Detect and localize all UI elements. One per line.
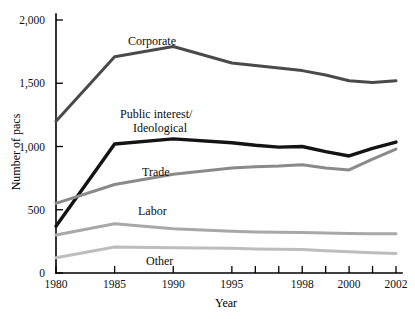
pac-growth-chart: 05001,0001,5002,000 Number of pacs 19801… [0, 0, 415, 319]
y-tick-label: 2,000 [19, 14, 45, 27]
y-tick-label: 1,000 [19, 141, 45, 154]
x-axis-title: Year [215, 296, 237, 310]
chart-canvas: 05001,0001,5002,000 Number of pacs 19801… [0, 0, 415, 319]
x-axis-group: 1980198519901995199820002002 Year [45, 266, 408, 310]
series-label: Other [146, 254, 173, 268]
x-tick-label: 2002 [385, 278, 408, 290]
series-line [56, 139, 396, 226]
y-axis-group: 05001,0001,5002,000 Number of pacs [9, 14, 63, 279]
series-label: Trade [142, 165, 170, 179]
y-axis-tick-labels: 05001,0001,5002,000 [19, 14, 45, 279]
y-axis-title: Number of pacs [9, 113, 23, 190]
x-tick-label: 1990 [162, 278, 185, 290]
x-axis-ticks [56, 266, 396, 273]
series-inline-labels: CorporatePublic interest/IdeologicalTrad… [120, 34, 193, 268]
x-tick-label: 1995 [220, 278, 243, 290]
series-label: Labor [138, 204, 167, 218]
series-line [56, 47, 396, 122]
data-series-lines [56, 47, 396, 258]
x-axis-tick-labels: 1980198519901995199820002002 [45, 278, 408, 290]
series-label: Corporate [128, 34, 176, 48]
x-tick-label: 1980 [45, 278, 68, 290]
x-tick-label: 2000 [338, 278, 361, 290]
y-tick-label: 1,500 [19, 77, 45, 90]
y-tick-label: 500 [28, 204, 46, 216]
x-tick-label: 1998 [291, 278, 314, 290]
series-label: Public interest/ [120, 107, 193, 121]
series-label: Ideological [133, 121, 188, 135]
x-tick-label: 1985 [103, 278, 126, 290]
series-line [56, 224, 396, 235]
series-line [56, 247, 396, 258]
